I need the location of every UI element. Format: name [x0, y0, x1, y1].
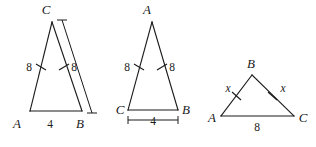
triangle-3-left-length-label: x — [224, 82, 231, 94]
triangle-3-right-vertex-label: C — [299, 110, 308, 125]
triangle-1-left-vertex-label: A — [12, 116, 21, 131]
triangle-3-right-tick — [268, 92, 277, 100]
triangle-1-right-vertex-label: B — [76, 116, 84, 131]
figure-canvas: C A B 8 8 4 A C B 8 8 4 — [0, 0, 316, 147]
triangle-2-left-length-label: 8 — [124, 61, 130, 73]
triangle-2: A C B 8 8 4 — [116, 2, 190, 127]
triangle-3-base-length-label: 8 — [254, 121, 260, 133]
triangle-1-right-length-label: 8 — [71, 61, 77, 73]
triangle-2-right-length-label: 8 — [169, 61, 175, 73]
geometry-figure: C A B 8 8 4 A C B 8 8 4 — [0, 0, 316, 147]
triangle-3-left-vertex-label: A — [207, 110, 216, 125]
triangle-2-left-edge — [128, 22, 152, 110]
triangle-2-right-vertex-label: B — [182, 102, 190, 117]
triangle-2-apex-label: A — [142, 2, 151, 17]
triangle-3-right-length-label: x — [279, 82, 286, 94]
triangle-3: B A C x x 8 — [207, 56, 308, 133]
triangle-1-base-length-label: 4 — [47, 118, 53, 130]
triangle-1: C A B 8 8 4 — [12, 2, 97, 131]
triangle-2-left-vertex-label: C — [116, 102, 125, 117]
triangle-3-apex-label: B — [247, 56, 255, 71]
triangle-1-left-length-label: 8 — [26, 61, 32, 73]
triangle-3-right-edge — [252, 75, 294, 116]
triangle-1-apex-label: C — [42, 2, 51, 17]
triangle-2-base-length-label: 4 — [150, 115, 156, 127]
